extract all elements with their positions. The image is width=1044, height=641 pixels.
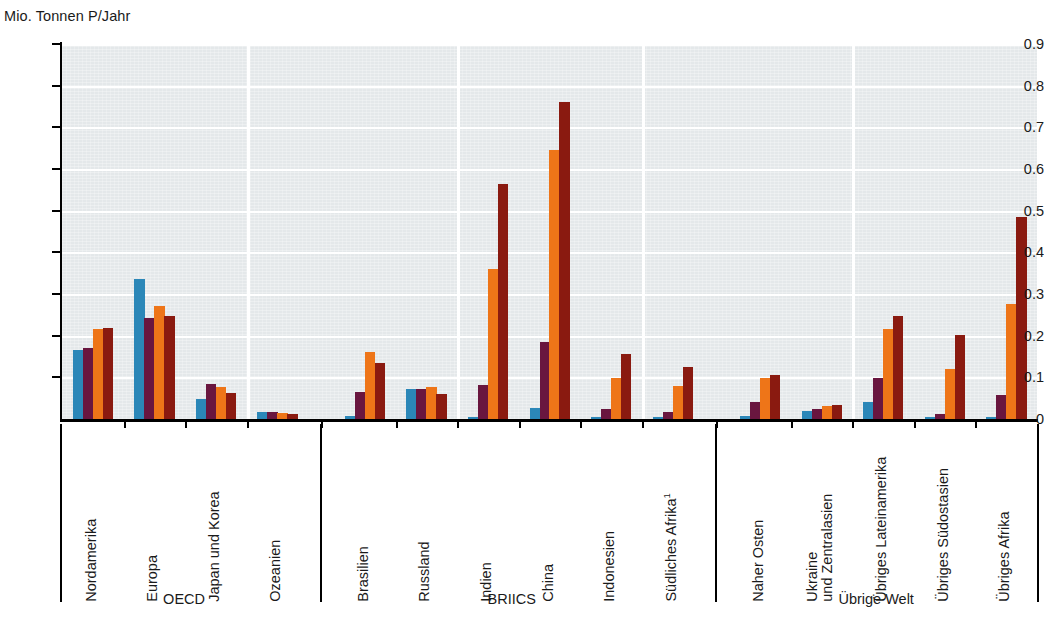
bar-group: [196, 44, 236, 419]
bar: [873, 378, 883, 419]
bar-group: [863, 44, 903, 419]
gridline-vertical: [247, 44, 250, 419]
bar-group: [653, 44, 693, 419]
y-axis-tick-label: 0.4: [1000, 244, 1044, 260]
group-separator: [1037, 424, 1039, 602]
bar: [488, 269, 498, 419]
bar: [257, 412, 267, 419]
gridline-vertical: [852, 44, 855, 419]
bar: [750, 402, 760, 419]
bar: [802, 411, 812, 419]
bar-group: [986, 44, 1026, 419]
bar: [406, 389, 416, 419]
group-label: Übrige Welt: [715, 591, 1037, 607]
bar-group: [73, 44, 113, 419]
bar: [93, 329, 103, 419]
y-axis-tick-mark: [52, 293, 61, 295]
gridline-vertical: [642, 44, 645, 419]
bar: [83, 348, 93, 419]
bar: [549, 150, 559, 419]
bar: [955, 335, 965, 419]
y-axis-tick-mark: [52, 210, 61, 212]
bar: [760, 378, 770, 419]
group-labels-row: OECDBRIICSÜbrige Welt: [0, 424, 1044, 624]
bar: [611, 378, 621, 419]
bar-group: [345, 44, 385, 419]
y-axis-tick-mark: [52, 251, 61, 253]
y-axis-tick-mark: [52, 43, 61, 45]
bar: [426, 387, 436, 420]
plot-area: [62, 44, 1037, 419]
bar: [103, 328, 113, 419]
bar: [216, 387, 226, 420]
y-axis-line: [60, 42, 62, 421]
group-label: BRIICS: [320, 591, 703, 607]
bar: [883, 329, 893, 419]
bar-group: [530, 44, 570, 419]
bar: [1006, 304, 1016, 419]
bar-group: [134, 44, 174, 419]
bar: [663, 412, 673, 419]
bar: [540, 342, 550, 420]
group-separator: [320, 424, 322, 602]
bar: [673, 386, 683, 419]
bar: [893, 316, 903, 419]
bar-group: [925, 44, 965, 419]
bar: [416, 389, 426, 419]
bar: [832, 405, 842, 419]
bar-group: [257, 44, 297, 419]
bar: [164, 316, 174, 419]
bar: [154, 306, 164, 419]
bar: [863, 402, 873, 419]
y-axis-tick-label: 0.5: [1000, 203, 1044, 219]
y-axis-tick-mark: [52, 335, 61, 337]
bar-group: [740, 44, 780, 419]
y-axis-tick-label: 0.2: [1000, 328, 1044, 344]
y-axis-tick-label: 0.3: [1000, 286, 1044, 302]
bar: [375, 363, 385, 419]
y-axis-tick-mark: [52, 376, 61, 378]
gridline-vertical: [457, 44, 460, 419]
bar-group: [591, 44, 631, 419]
y-axis-title: Mio. Tonnen P/Jahr: [4, 8, 130, 24]
bar: [770, 375, 780, 419]
group-separator: [715, 424, 717, 602]
bar: [683, 367, 693, 419]
y-axis-tick-label: 0.8: [1000, 78, 1044, 94]
bar: [436, 394, 446, 419]
bar: [365, 352, 375, 420]
bar: [812, 409, 822, 419]
y-axis-tick-label: 0.7: [1000, 119, 1044, 135]
bar: [73, 350, 83, 419]
y-axis-tick-mark: [52, 126, 61, 128]
bar: [822, 406, 832, 419]
bar: [530, 408, 540, 419]
bar: [601, 409, 611, 419]
bar: [267, 412, 277, 419]
y-axis-tick-label: 0.1: [1000, 369, 1044, 385]
y-axis-tick-label: 0.9: [1000, 36, 1044, 52]
bar: [355, 392, 365, 420]
bar: [226, 393, 236, 419]
bar: [206, 384, 216, 419]
bar-group: [406, 44, 446, 419]
group-separator: [60, 424, 62, 602]
bar: [621, 354, 631, 419]
y-axis-tick-mark: [52, 168, 61, 170]
bar: [559, 102, 569, 419]
bar: [196, 399, 206, 419]
y-axis-tick-label: 0.6: [1000, 161, 1044, 177]
bar: [134, 279, 144, 419]
bar: [498, 184, 508, 419]
y-axis-tick-mark: [52, 85, 61, 87]
bar: [945, 369, 955, 419]
bar: [478, 385, 488, 419]
bar-group: [468, 44, 508, 419]
x-axis-line: [60, 419, 1038, 422]
bar-group: [802, 44, 842, 419]
group-label: OECD: [60, 591, 308, 607]
bar: [144, 318, 154, 419]
